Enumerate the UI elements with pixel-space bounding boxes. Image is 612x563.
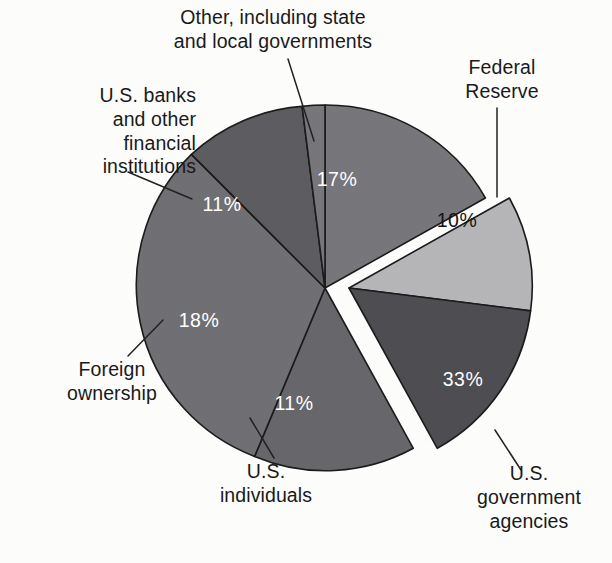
pie-value-us-government-agencies: 33% xyxy=(443,368,484,390)
pie-label-foreign-ownership: Foreign ownership xyxy=(22,358,202,406)
pie-label-us-banks: U.S. banks and other financial instituti… xyxy=(6,84,196,179)
pie-value-us-banks: 11% xyxy=(202,193,241,215)
pie-label-other: Other, including state and local governm… xyxy=(148,6,398,54)
pie-label-federal-reserve: Federal Reserve xyxy=(432,56,572,104)
pie-value-foreign-ownership: 18% xyxy=(179,309,220,331)
pie-value-federal-reserve: 10% xyxy=(437,209,478,231)
pie-label-us-individuals: U.S. individuals xyxy=(176,460,356,508)
pie-chart-figure: 17% 10% 33% 11% 18% 11% Other, including… xyxy=(0,0,612,563)
pie-value-other: 17% xyxy=(317,168,358,190)
pie-label-us-government-agencies: U.S. government agencies xyxy=(450,462,608,533)
pie-value-us-individuals: 11% xyxy=(274,392,313,414)
